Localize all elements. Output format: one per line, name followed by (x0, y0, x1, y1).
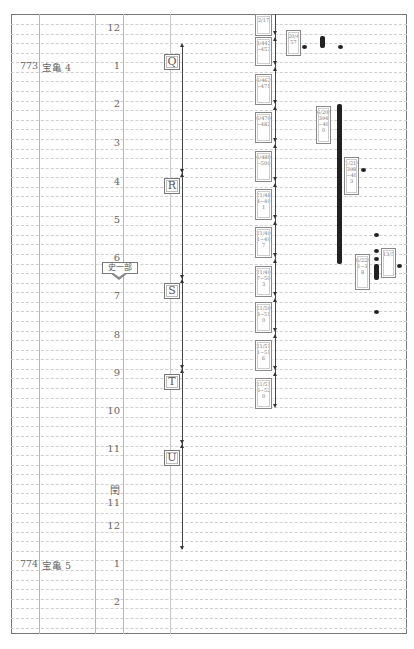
grid-line (11, 331, 407, 332)
grid-line (11, 446, 407, 447)
grid-line (11, 340, 407, 341)
grid-line (11, 254, 407, 255)
arrow-down-icon (273, 138, 277, 142)
side-document-box: 1/21/398~403 (344, 157, 359, 195)
arrow-up-icon (180, 173, 184, 177)
grid-line (11, 196, 407, 197)
arrow-down-icon (273, 100, 277, 104)
arrow-up-icon (273, 144, 277, 148)
period-box-t: T (164, 374, 180, 390)
month-label: 7 (96, 290, 120, 301)
month-label: 9 (96, 367, 120, 378)
month-label: 5 (96, 214, 120, 225)
side-document-box: 13/5 (381, 248, 396, 278)
document-box: 21/516~520 (255, 378, 272, 409)
era-label: 宝亀 4 (42, 60, 71, 74)
period-box-u: U (164, 450, 180, 466)
side-document-box: 6/20/394~400 (316, 106, 331, 144)
record-dot (374, 310, 379, 314)
grid-line (11, 149, 407, 150)
arrow-down-icon (273, 292, 277, 296)
grid-line (11, 273, 407, 274)
month-label: 12 (96, 22, 120, 33)
month-label: 1 (96, 558, 120, 569)
grid-line (11, 302, 407, 303)
grid-line (11, 139, 407, 140)
record-bar (320, 36, 325, 48)
month-label: 11 (96, 443, 120, 454)
month-label: 1 (96, 60, 120, 71)
month-label: 閏 11 (96, 482, 120, 508)
grid-line (11, 513, 407, 514)
column-divider-year (39, 14, 40, 634)
month-label: 12 (96, 520, 120, 531)
grid-line (11, 129, 407, 130)
document-box: 21/484~491 (255, 189, 272, 220)
document-box: 3/442~453 (255, 37, 272, 66)
grid-line (11, 311, 407, 312)
grid-line (11, 599, 407, 600)
arrow-down-icon (180, 546, 184, 550)
grid-line (11, 120, 407, 121)
arrow-up-icon (273, 298, 277, 302)
arrow-up-icon (180, 43, 184, 47)
arrow-up-icon (273, 183, 277, 187)
grid-line (11, 522, 407, 523)
grid-line (11, 244, 407, 245)
arrow-up-icon (273, 334, 277, 338)
document-box: 6/462~471 (255, 74, 272, 105)
side-document-box: 6/22/1~38 (355, 254, 370, 290)
record-bar (374, 264, 379, 280)
arrow-down-icon (273, 404, 277, 408)
grid-line (11, 359, 407, 360)
grid-line (11, 235, 407, 236)
period-box-r: R (164, 178, 180, 194)
arrow-down-icon (273, 177, 277, 181)
arrow-up-icon (180, 444, 184, 448)
grid-line (11, 551, 407, 552)
grid-line (11, 292, 407, 293)
grid-line (11, 407, 407, 408)
grid-line (11, 541, 407, 542)
grid-line (11, 455, 407, 456)
grid-line (11, 110, 407, 111)
grid-line (11, 369, 407, 370)
year-label: 773 (20, 60, 38, 71)
arrow-down-icon (273, 61, 277, 65)
document-box: 6/470~482 (255, 112, 272, 143)
grid-line (11, 34, 407, 35)
record-bar (337, 104, 342, 264)
grid-line (11, 321, 407, 322)
era-label: 宝亀 5 (42, 558, 71, 572)
grid-line (11, 532, 407, 533)
document-box: 21/491~497 (255, 227, 272, 258)
record-dot (374, 233, 379, 237)
grid-line (11, 350, 407, 351)
grid-line (11, 101, 407, 102)
grid-line (11, 503, 407, 504)
period-span-line (182, 46, 183, 549)
grid-line (11, 493, 407, 494)
column-divider-month (123, 14, 124, 634)
grid-line (11, 283, 407, 284)
document-box: 2/17 (255, 14, 272, 36)
grid-line (11, 53, 407, 54)
grid-line (11, 589, 407, 590)
arrow-down-icon (273, 253, 277, 257)
grid-line (11, 225, 407, 226)
arrow-up-icon (180, 369, 184, 373)
arrow-up-icon (273, 67, 277, 71)
grid-line (11, 608, 407, 609)
record-dot (338, 45, 343, 49)
month-label: 8 (96, 329, 120, 340)
grid-line (11, 206, 407, 207)
grid-line (11, 388, 407, 389)
record-dot (397, 264, 402, 268)
arrow-up-icon (273, 372, 277, 376)
grid-line (11, 426, 407, 427)
arrow-down-icon (273, 328, 277, 332)
grid-line (11, 91, 407, 92)
grid-line (11, 24, 407, 25)
grid-line (11, 618, 407, 619)
record-dot (374, 249, 379, 253)
